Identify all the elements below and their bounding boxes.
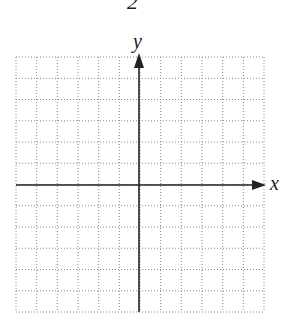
x-axis-arrow-icon xyxy=(252,180,266,190)
coordinate-grid xyxy=(0,0,293,320)
y-axis-arrow-icon xyxy=(134,53,144,68)
